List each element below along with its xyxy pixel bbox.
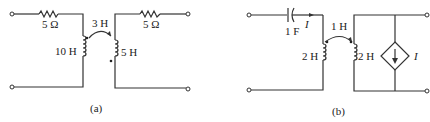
inductor-b-primary — [323, 44, 326, 60]
dependent-source-label: I — [413, 50, 419, 62]
terminal-a-top-left — [10, 12, 14, 16]
mutual-inductance-b-label: 1 H — [331, 20, 347, 32]
inductor-a-secondary — [115, 36, 118, 56]
resistor-a-left — [39, 11, 58, 17]
polarity-dot-a-secondary — [110, 60, 113, 63]
resistor-a-left-label: 5 Ω — [42, 18, 58, 30]
circuit-a: 5 Ω 10 H 3 H 5 H 5 Ω (a) — [10, 11, 190, 115]
circuit-b: 1 F I 2 H 1 H 2 H I (b) — [247, 8, 429, 118]
resistor-a-right — [140, 11, 160, 17]
mutual-coupling-arc-a — [89, 31, 111, 38]
terminal-b-bottom-right — [425, 89, 429, 93]
current-arrow-b — [309, 13, 314, 17]
terminal-a-bottom-left — [10, 85, 14, 89]
circuit-diagrams: 5 Ω 10 H 3 H 5 H 5 Ω (a) — [0, 0, 430, 122]
terminal-a-bottom-right — [186, 87, 190, 91]
terminal-b-top-left — [247, 13, 251, 17]
inductor-a-secondary-label: 5 H — [121, 46, 137, 58]
mutual-coupling-arc-b — [325, 37, 352, 43]
terminal-a-top-right — [186, 12, 190, 16]
polarity-dot-a-primary — [86, 37, 89, 40]
inductor-a-primary-label: 10 H — [55, 45, 77, 57]
resistor-a-right-label: 5 Ω — [143, 18, 159, 30]
terminal-b-top-right — [425, 13, 429, 17]
terminal-b-bottom-left — [247, 88, 251, 92]
caption-a: (a) — [90, 102, 103, 115]
polarity-dot-b-secondary — [350, 41, 353, 44]
inductor-b-secondary-label: 2 H — [358, 50, 374, 62]
mutual-inductance-a-label: 3 H — [92, 17, 108, 29]
current-label-b: I — [304, 18, 310, 30]
inductor-b-primary-label: 2 H — [302, 50, 318, 62]
caption-b: (b) — [332, 105, 345, 118]
inductor-a-primary — [83, 36, 86, 56]
inductor-b-secondary — [354, 44, 357, 60]
capacitor-b-label: 1 F — [285, 25, 299, 37]
